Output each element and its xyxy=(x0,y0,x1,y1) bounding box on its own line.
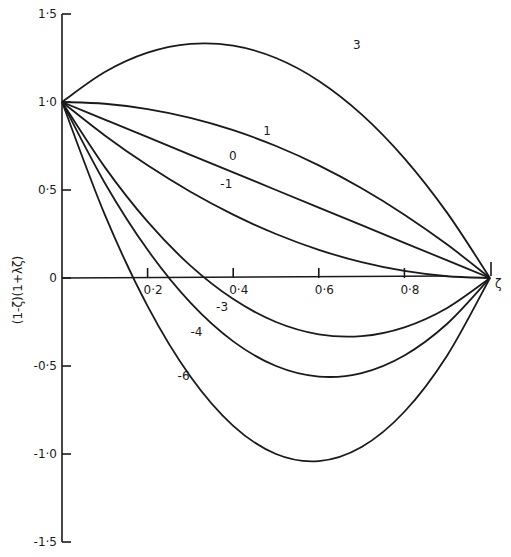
x-tick-label: 0·4 xyxy=(229,283,248,297)
axes xyxy=(62,14,491,542)
curve-lambda-3 xyxy=(62,43,490,278)
curve-label: -3 xyxy=(216,300,228,314)
y-tick-label: 1·0 xyxy=(38,95,57,109)
curve-lambda--4 xyxy=(62,102,490,377)
y-tick-label: 0 xyxy=(49,271,57,285)
x-axis-label: ζ xyxy=(495,277,502,291)
curve-lambda-0 xyxy=(62,102,490,278)
x-tick-label: 0·2 xyxy=(144,283,163,297)
x-tick-label: 0·6 xyxy=(315,283,334,297)
curve-label: 1 xyxy=(263,124,271,138)
y-tick-label: -0·5 xyxy=(34,359,57,373)
chart: 1·51·00·50-0·5-1·0-1·50·20·40·60·8ζ(1-ζ)… xyxy=(0,0,511,557)
y-tick-label: 0·5 xyxy=(38,183,57,197)
curve-lambda--6 xyxy=(62,102,490,461)
curve-label: -1 xyxy=(220,177,232,191)
y-tick-label: 1·5 xyxy=(38,7,57,21)
curve-label: -4 xyxy=(190,325,202,339)
y-tick-label: -1·0 xyxy=(34,447,57,461)
curves xyxy=(62,43,490,461)
y-axis-label: (1-ζ)(1+λζ) xyxy=(11,256,25,325)
y-tick-label: -1·5 xyxy=(34,535,57,549)
x-axis xyxy=(62,276,447,278)
curve-label: -6 xyxy=(178,369,190,383)
curve-label: 3 xyxy=(353,38,361,52)
x-tick-label: 0·8 xyxy=(400,283,419,297)
curve-label: 0 xyxy=(229,149,237,163)
